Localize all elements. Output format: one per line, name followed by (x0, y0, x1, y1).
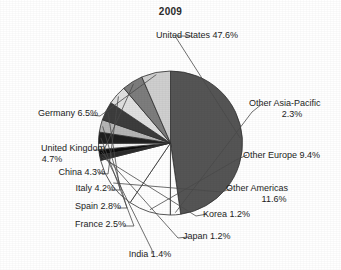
slice-label-united-kingdom-value: 4.7% (2, 154, 102, 165)
slice-label-china: China 4.3% (10, 167, 105, 178)
slice-label-korea: Korea 1.2% (203, 209, 287, 220)
pie-chart-figure: 2009 United States 47.6% Other Asia-Paci… (0, 0, 341, 270)
slice-label-italy: Italy 4.2% (18, 183, 115, 194)
pie-slice-group (98, 71, 242, 215)
slice-label-japan: Japan 1.2% (183, 231, 267, 242)
slice-label-other-asia-pacific-value: 2.3% (249, 109, 335, 120)
slice-label-other-asia-pacific: Other Asia-Pacific (249, 98, 341, 109)
slice-label-other-europe: Other Europe 9.4% (243, 150, 341, 161)
slice-label-germany: Germany 6.5% (0, 108, 98, 119)
slice-label-spain: Spain 2.8% (18, 201, 121, 212)
slice-label-other-americas: Other Americas (226, 183, 330, 194)
slice-label-india: India 1.4% (110, 249, 190, 260)
slice-label-united-kingdom: United Kingdom (2, 143, 105, 154)
slice-label-united-states: United States 47.6% (88, 30, 238, 41)
slice-label-france: France 2.5% (18, 219, 126, 230)
slice-label-other-americas-value: 11.6% (226, 194, 322, 205)
